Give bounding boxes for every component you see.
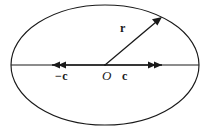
label-negative-c: −c: [55, 70, 68, 82]
label-positive-c: c: [122, 70, 127, 82]
label-origin: O: [102, 69, 111, 82]
label-radius-vector-r: r: [120, 22, 125, 34]
origin-point: [104, 64, 106, 66]
ellipse-vector-figure: −c O c r: [0, 0, 210, 135]
vector-r-shaft: [105, 20, 159, 66]
